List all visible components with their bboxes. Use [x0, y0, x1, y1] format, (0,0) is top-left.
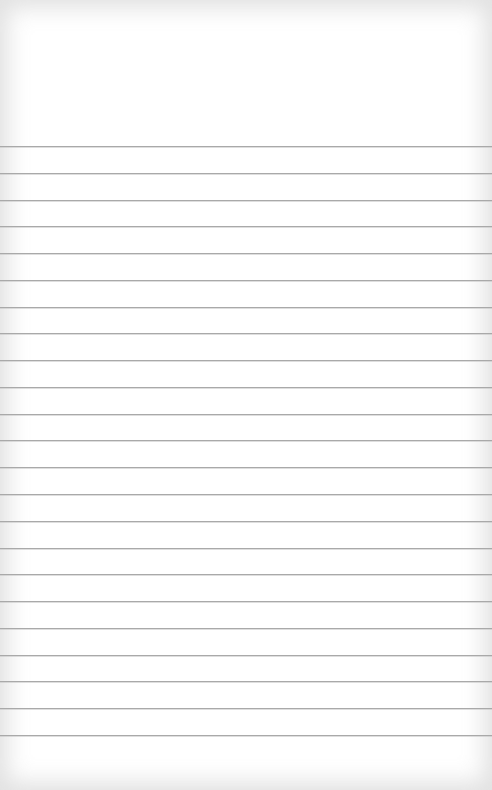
ruled-line — [0, 440, 492, 441]
ruled-line — [0, 226, 492, 227]
ruled-line — [0, 387, 492, 388]
ruled-line — [0, 307, 492, 308]
ruled-line — [0, 280, 492, 281]
ruled-line — [0, 601, 492, 602]
ruled-line — [0, 467, 492, 468]
ruled-line — [0, 628, 492, 629]
ruled-line — [0, 548, 492, 549]
lined-paper — [0, 0, 492, 790]
ruled-line — [0, 360, 492, 361]
ruled-line — [0, 494, 492, 495]
ruled-line — [0, 521, 492, 522]
ruled-line — [0, 574, 492, 575]
ruled-line — [0, 333, 492, 334]
ruled-line — [0, 173, 492, 174]
ruled-line — [0, 146, 492, 147]
ruled-line — [0, 200, 492, 201]
ruled-line — [0, 253, 492, 254]
ruled-line — [0, 735, 492, 736]
ruled-line — [0, 414, 492, 415]
ruled-line — [0, 681, 492, 682]
ruled-line — [0, 708, 492, 709]
ruled-line — [0, 655, 492, 656]
